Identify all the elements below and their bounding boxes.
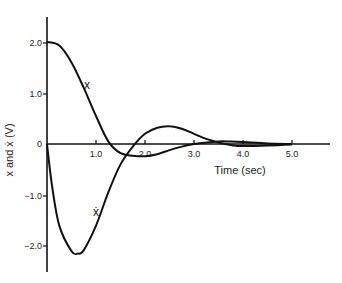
y-tick-label: −2.0 xyxy=(24,241,42,251)
curve-x-dot-label: ẋ xyxy=(93,205,99,219)
y-tick-label: 0 xyxy=(37,139,42,149)
x-tick-label: 1.0 xyxy=(90,149,103,159)
x-tick-label: 3.0 xyxy=(188,149,201,159)
curve-x-label: x xyxy=(84,78,90,92)
chart: 2.0 1.0 0 −1.0 −2.0 1.0 2.0 3.0 4.0 5.0 … xyxy=(0,0,342,283)
curve-x xyxy=(47,42,292,156)
curve-x-dot xyxy=(47,126,292,254)
y-tick-label: 1.0 xyxy=(29,89,42,99)
y-tick-label: 2.0 xyxy=(29,38,42,48)
x-tick-label: 2.0 xyxy=(139,149,152,159)
x-tick-label: 5.0 xyxy=(286,149,299,159)
x-axis-title: Time (sec) xyxy=(214,164,266,176)
y-tick-label: −1.0 xyxy=(24,191,42,201)
y-axis-title: x and ẋ (V) xyxy=(3,123,15,176)
x-tick-label: 4.0 xyxy=(237,149,250,159)
